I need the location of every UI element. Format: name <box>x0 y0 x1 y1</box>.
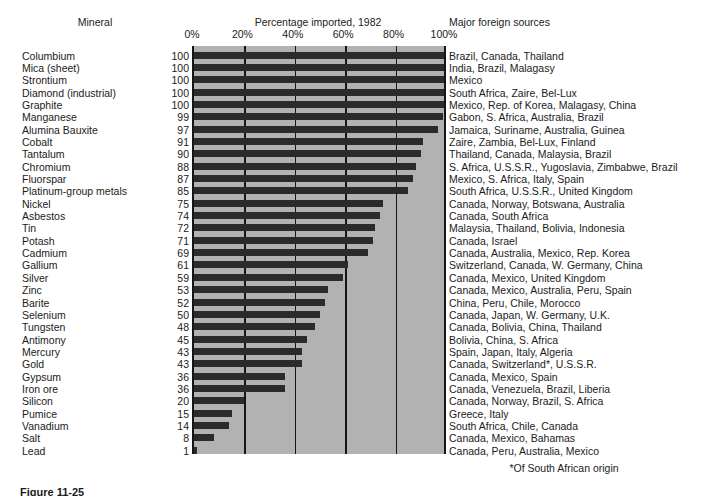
bar <box>194 200 383 207</box>
bar <box>194 113 443 120</box>
bar <box>194 89 446 96</box>
row-value: 100 <box>120 50 189 62</box>
bar <box>194 385 285 392</box>
row-value: 87 <box>120 173 189 185</box>
row-source: Brazil, Canada, Thailand <box>449 50 715 62</box>
row-source: Canada, Bolivia, China, Thailand <box>449 321 715 333</box>
row-source: Canada, Norway, Brazil, S. Africa <box>449 395 715 407</box>
row-source: Malaysia, Thailand, Bolivia, Indonesia <box>449 222 715 234</box>
row-value: 100 <box>120 87 189 99</box>
row-source: South Africa, Chile, Canada <box>449 420 715 432</box>
bar <box>194 150 421 157</box>
bar <box>194 64 446 71</box>
row-source: Canada, Australia, Mexico, Rep. Korea <box>449 247 715 259</box>
row-value: 100 <box>120 62 189 74</box>
row-value: 90 <box>120 148 189 160</box>
row-source: Canada, Venezuela, Brazil, Liberia <box>449 383 715 395</box>
row-value: 75 <box>120 198 189 210</box>
row-value: 15 <box>120 408 189 420</box>
row-value: 100 <box>120 74 189 86</box>
row-source: Canada, Peru, Australia, Mexico <box>449 445 715 457</box>
bar <box>194 348 302 355</box>
figure-root: Mineral Percentage imported, 1982 Major … <box>0 0 716 496</box>
row-value: 52 <box>120 297 189 309</box>
row-source: Bolivia, China, S. Africa <box>449 334 715 346</box>
plot-right-border <box>444 46 446 454</box>
x-tick-label-0: 0% <box>184 28 199 40</box>
row-source: S. Africa, U.S.S.R., Yugoslavia, Zimbabw… <box>449 161 715 173</box>
bar <box>194 360 302 367</box>
bar <box>194 237 373 244</box>
row-source: Canada, Switzerland*, U.S.S.R. <box>449 358 715 370</box>
row-value: 72 <box>120 222 189 234</box>
chart-title: Percentage imported, 1982 <box>192 16 444 28</box>
bar <box>194 52 446 59</box>
bar <box>194 299 325 306</box>
bar <box>194 397 244 404</box>
bar <box>194 187 408 194</box>
bar <box>194 274 343 281</box>
row-value: 14 <box>120 420 189 432</box>
row-source: Canada, South Africa <box>449 210 715 222</box>
row-source: Canada, Norway, Botswana, Australia <box>449 198 715 210</box>
row-source: South Africa, U.S.S.R., United Kingdom <box>449 185 715 197</box>
bar <box>194 175 413 182</box>
bar <box>194 323 315 330</box>
column-header-mineral: Mineral <box>0 16 190 28</box>
x-tick-label-80: 80% <box>383 28 404 40</box>
row-source: Canada, Mexico, Australia, Peru, Spain <box>449 284 715 296</box>
row-value: 71 <box>120 235 189 247</box>
bar <box>194 224 375 231</box>
bar <box>194 163 416 170</box>
bar <box>194 138 423 145</box>
row-value: 74 <box>120 210 189 222</box>
row-source: Canada, Mexico, Bahamas <box>449 432 715 444</box>
plot-area <box>192 46 444 454</box>
row-value: 8 <box>120 432 189 444</box>
row-value: 100 <box>120 99 189 111</box>
figure-caption: Figure 11-25 <box>20 486 84 496</box>
row-value: 91 <box>120 136 189 148</box>
row-value: 85 <box>120 185 189 197</box>
row-source: Mexico, S. Africa, Italy, Spain <box>449 173 715 185</box>
bar <box>194 126 438 133</box>
bar <box>194 336 307 343</box>
bar <box>194 261 348 268</box>
x-tick-label-60: 60% <box>333 28 354 40</box>
row-value: 69 <box>120 247 189 259</box>
row-value: 97 <box>120 124 189 136</box>
x-tick-label-100: 100% <box>431 28 458 40</box>
row-value: 36 <box>120 371 189 383</box>
row-value: 59 <box>120 272 189 284</box>
row-source: South Africa, Zaire, Bel-Lux <box>449 87 715 99</box>
bar <box>194 286 328 293</box>
row-source: Spain, Japan, Italy, Algeria <box>449 346 715 358</box>
row-value: 43 <box>120 358 189 370</box>
row-value: 1 <box>120 445 189 457</box>
row-value: 50 <box>120 309 189 321</box>
row-value: 43 <box>120 346 189 358</box>
row-source: Switzerland, Canada, W. Germany, China <box>449 259 715 271</box>
bar <box>194 410 232 417</box>
row-source: Thailand, Canada, Malaysia, Brazil <box>449 148 715 160</box>
row-source: Mexico <box>449 74 715 86</box>
row-value: 20 <box>120 395 189 407</box>
row-value: 45 <box>120 334 189 346</box>
bar <box>194 434 214 441</box>
bar <box>194 212 380 219</box>
row-source: Canada, Mexico, United Kingdom <box>449 272 715 284</box>
row-source: Zaire, Zambia, Bel-Lux, Finland <box>449 136 715 148</box>
footnote: *Of South African origin <box>449 462 679 474</box>
row-source: India, Brazil, Malagasy <box>449 62 715 74</box>
row-source: Greece, Italy <box>449 408 715 420</box>
row-value: 36 <box>120 383 189 395</box>
x-tick-label-40: 40% <box>282 28 303 40</box>
row-value: 88 <box>120 161 189 173</box>
row-value: 99 <box>120 111 189 123</box>
bar <box>194 422 229 429</box>
row-value: 53 <box>120 284 189 296</box>
row-source: Gabon, S. Africa, Australia, Brazil <box>449 111 715 123</box>
bar <box>194 76 446 83</box>
row-source: Mexico, Rep. of Korea, Malagasy, China <box>449 99 715 111</box>
bar <box>194 101 446 108</box>
